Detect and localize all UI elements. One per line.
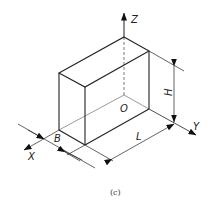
figure-caption: (c): [110, 188, 121, 197]
hidden-edges: [59, 95, 149, 130]
z-axis-label: Z: [130, 14, 139, 25]
y-axis-label: Y: [193, 121, 200, 132]
x-axis-label: X: [27, 151, 36, 162]
y-axis: [149, 109, 196, 135]
prism-diagram: Z O Y X B L H (c): [0, 0, 216, 208]
length-label: L: [136, 131, 142, 142]
height-dimension: [149, 51, 184, 122]
width-label: B: [54, 133, 61, 144]
x-axis: [24, 141, 40, 150]
length-dimension: [85, 124, 174, 161]
box-visible-edges: [59, 37, 149, 145]
height-label: H: [163, 88, 174, 96]
origin-label: O: [120, 103, 128, 114]
